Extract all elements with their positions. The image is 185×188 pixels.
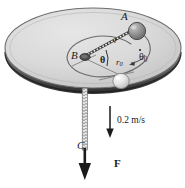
hole-b [80, 54, 90, 61]
label-point-a: A [121, 11, 128, 22]
label-theta-dot-base: θ [139, 52, 144, 62]
label-radius-r0: r0 [116, 58, 123, 68]
label-velocity-magnitude: 0.2 m/s [117, 116, 145, 126]
figure-canvas [0, 0, 185, 188]
label-angle-theta: θ [100, 55, 105, 65]
ball-initial-position [113, 73, 129, 88]
physics-figure: A B C r θ r0 θ0 0.2 m/s F [0, 0, 185, 188]
ball-a [128, 22, 145, 39]
label-theta-dot-subscript: 0 [144, 56, 148, 64]
label-radius-r0-subscript: 0 [120, 60, 123, 67]
label-force-f: F [114, 158, 121, 169]
velocity-arrow [106, 106, 113, 138]
label-radius-r: r [114, 36, 118, 45]
label-theta-dot-zero: θ0 [139, 52, 147, 64]
force-arrow [79, 148, 91, 180]
label-point-c: C [77, 140, 84, 151]
label-point-b: B [71, 50, 78, 61]
